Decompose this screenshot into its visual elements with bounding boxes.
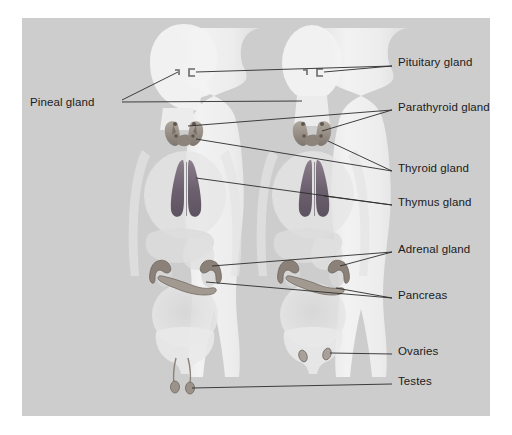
leader-testes: [192, 384, 392, 388]
left-figure-male: [129, 24, 263, 394]
label-thymus-gland: Thymus gland: [398, 196, 471, 208]
endocrine-diagram: Pineal gland Pituitary gland Parathyroid…: [0, 0, 512, 435]
label-pituitary-gland: Pituitary gland: [398, 56, 472, 68]
pelvis-right: [284, 327, 343, 374]
chest-shade-right: [272, 151, 354, 239]
pelvis-left: [156, 327, 215, 374]
label-pineal-gland: Pineal gland: [30, 96, 95, 108]
label-ovaries: Ovaries: [398, 345, 438, 357]
label-testes: Testes: [398, 375, 432, 387]
leader-pineal-b: [122, 101, 302, 102]
right-figure-female: [257, 25, 410, 377]
head-profile-left: [150, 24, 217, 111]
label-parathyroid-gland: Parathyroid gland: [398, 101, 490, 113]
head-frontal-right: [282, 25, 342, 101]
label-pancreas: Pancreas: [398, 289, 447, 301]
chest-shade-left: [144, 151, 226, 239]
label-adrenal-gland: Adrenal gland: [398, 243, 470, 255]
label-thyroid-gland: Thyroid gland: [398, 162, 469, 174]
